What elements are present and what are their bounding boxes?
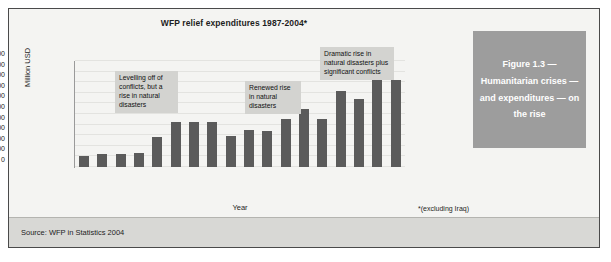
bar-slot xyxy=(185,61,203,167)
bar-slot xyxy=(258,61,276,167)
y-tick-label: 1000 xyxy=(0,103,5,110)
bar xyxy=(262,131,272,167)
source-band: Source: WFP in Statistics 2004 xyxy=(9,217,599,247)
y-tick-label: 0 xyxy=(0,156,5,163)
y-tick-label: 1200 xyxy=(0,92,5,99)
bar xyxy=(354,99,364,167)
source-text: Source: WFP in Statistics 2004 xyxy=(21,228,124,237)
bar xyxy=(299,109,309,167)
bar-slot xyxy=(240,61,258,167)
chart-footnote: *(excluding Iraq) xyxy=(309,205,469,212)
bar xyxy=(79,156,89,167)
figure-container: WFP relief expenditures 1987-2004* Milli… xyxy=(8,8,600,248)
bar-slot xyxy=(222,61,240,167)
y-tick-label: 400 xyxy=(0,135,5,142)
y-tick-label: 2000 xyxy=(0,50,5,57)
y-axis-label: Million USD xyxy=(23,48,32,87)
bar xyxy=(116,154,126,167)
y-tick-label: 1800 xyxy=(0,61,5,68)
bar-slot xyxy=(75,61,93,167)
bar xyxy=(244,130,254,167)
y-tick-label: 600 xyxy=(0,124,5,131)
bar xyxy=(152,137,162,167)
bar-slot xyxy=(93,61,111,167)
bar-slot xyxy=(277,61,295,167)
bar xyxy=(171,122,181,167)
bar-slot xyxy=(295,61,313,167)
figure-caption-text: Figure 1.3 — Humanitarian crises — and e… xyxy=(473,56,586,123)
bar xyxy=(226,136,236,167)
annotation-callout-2: Renewed rise in natural disasters xyxy=(245,81,301,114)
bar xyxy=(134,153,144,167)
bar xyxy=(391,80,401,167)
bar xyxy=(336,91,346,167)
y-tick-label: 200 xyxy=(0,145,5,152)
chart-panel: WFP relief expenditures 1987-2004* Milli… xyxy=(9,9,477,219)
chart-title: WFP relief expenditures 1987-2004* xyxy=(9,18,459,28)
bar xyxy=(317,119,327,167)
y-tick-label: 1400 xyxy=(0,82,5,89)
annotation-callout-1: Levelling off of conflicts, but a rise i… xyxy=(115,71,178,113)
bar xyxy=(207,122,217,167)
bar xyxy=(281,119,291,167)
bar xyxy=(189,122,199,167)
figure-caption-panel: Figure 1.3 — Humanitarian crises — and e… xyxy=(473,31,586,148)
bar xyxy=(97,154,107,167)
bar xyxy=(372,72,382,167)
annotation-callout-3: Dramatic rise in natural disasters plus … xyxy=(320,47,394,80)
y-tick-label: 800 xyxy=(0,114,5,121)
y-tick-label: 1600 xyxy=(0,71,5,78)
bar-slot xyxy=(203,61,221,167)
